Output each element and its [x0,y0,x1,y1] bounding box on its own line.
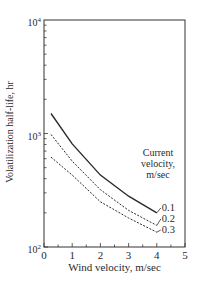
x-tick-label: 1 [66,250,78,260]
legend-leaders [157,208,161,232]
legend-leader-line [157,230,161,232]
legend-leader-line [157,208,161,213]
x-tick-label: 5 [179,250,191,260]
series-label: 0.3 [162,225,175,235]
legend-title-line-2: velocity, [128,158,188,169]
x-tick-label: 4 [151,250,163,260]
y-minor-ticks [44,25,48,247]
y-tick-label: 102 [11,242,41,255]
series-label: 0.1 [162,203,175,213]
legend-leader-line [157,219,161,225]
chart: Volatilization half-life, hr 102103104 0… [0,0,199,291]
legend-title: Current velocity, m/sec [128,147,188,180]
x-tick-label: 2 [94,250,106,260]
x-tick-label: 0 [38,250,50,260]
legend-title-line-3: m/sec [128,169,188,180]
y-tick-label: 104 [11,15,41,28]
series-label: 0.2 [162,214,175,224]
legend-title-line-1: Current [128,147,188,158]
x-minor-ticks [44,243,185,247]
y-tick-label: 103 [11,129,41,142]
x-tick-label: 3 [123,250,135,260]
x-axis-label: Wind velocity, m/sec [44,262,185,272]
